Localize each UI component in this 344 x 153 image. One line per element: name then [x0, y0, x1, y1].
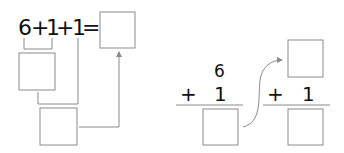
second-sum-box[interactable]	[40, 108, 77, 145]
plus-sign-v2: +	[267, 82, 284, 106]
top-number-6: 6	[214, 61, 225, 81]
partial-sum-box[interactable]	[19, 53, 55, 90]
vertical-addition-2: + 1	[263, 40, 330, 145]
result-box[interactable]	[100, 12, 135, 48]
addend-1-v2: 1	[302, 82, 315, 106]
vertical-sum-box-2[interactable]	[288, 109, 323, 145]
plus-sign-v1: +	[180, 82, 197, 106]
equals-sign: =	[82, 15, 100, 40]
horizontal-expression: 6 + 1 + 1 =	[18, 15, 100, 40]
arrow-to-result	[79, 52, 119, 127]
vertical-top-box[interactable]	[288, 40, 323, 77]
addition-diagram: 6 + 1 + 1 = 6 + 1 + 1	[0, 0, 344, 153]
addend-1-v1: 1	[214, 82, 227, 106]
vertical-addition-1: 6 + 1	[176, 61, 243, 145]
term-6: 6	[18, 15, 32, 40]
vertical-sum-box-1[interactable]	[203, 109, 238, 145]
